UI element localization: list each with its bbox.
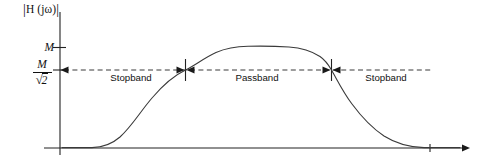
filter-response-figure: |H (jω)| M M √2 Stopband Passband Stopba…: [0, 0, 481, 162]
y-axis-title-close-bar: |: [56, 2, 59, 17]
y-axis: [53, 12, 66, 155]
y-tick-label-M: M: [38, 41, 54, 53]
cutoff-left-arrowhead-icon: [61, 67, 69, 74]
upper-cutoff-inner-left-arrowhead-icon: [323, 67, 331, 74]
fraction-numerator: M: [30, 58, 54, 71]
band-label-stopband-left: Stopband: [88, 72, 174, 83]
radicand-value: 2: [42, 73, 49, 86]
magnitude-response-curve: [62, 46, 460, 147]
y-axis-title-body: H (jω): [26, 3, 56, 15]
band-label-stopband-right: Stopband: [343, 72, 429, 83]
x-axis-arrowhead-icon: [462, 145, 470, 152]
band-label-passband: Passband: [214, 72, 300, 83]
upper-cutoff-inner-right-arrowhead-icon: [333, 67, 341, 74]
y-axis-title: |H (jω)|: [23, 2, 59, 17]
magnitude-response-curve-group: [62, 46, 460, 147]
fraction-denominator: √2: [30, 74, 54, 87]
y-tick-label-M-over-sqrt2: M √2: [30, 58, 54, 87]
